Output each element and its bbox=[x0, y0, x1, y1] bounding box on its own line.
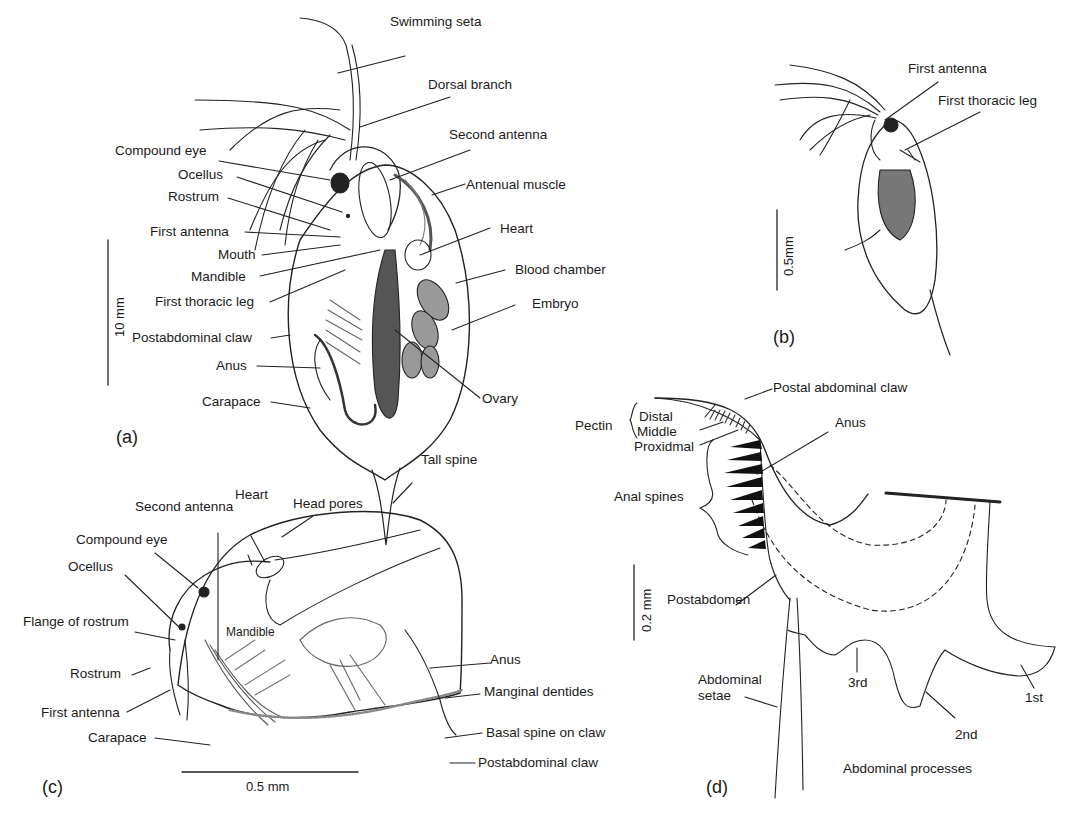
label-d-2nd: 2nd bbox=[955, 728, 978, 742]
label-a-dorsal-branch: Dorsal branch bbox=[428, 78, 512, 92]
label-a-rostrum: Rostrum bbox=[168, 190, 219, 204]
label-d-abdominal-setae: Abdominal setae bbox=[698, 672, 762, 703]
panel-a-scale-label: 10 mm bbox=[113, 297, 126, 337]
label-d-3rd: 3rd bbox=[848, 676, 868, 690]
label-a-mouth: Mouth bbox=[218, 248, 256, 262]
panel-c-drawing bbox=[125, 512, 490, 772]
label-a-swimming-seta: Swimming seta bbox=[390, 15, 482, 29]
label-d-anus: Anus bbox=[835, 416, 866, 430]
panel-a-tag: (a) bbox=[116, 428, 138, 446]
label-d-postabdomen: Postabdomen bbox=[667, 593, 750, 607]
label-a-blood-chamber: Blood chamber bbox=[515, 263, 606, 277]
label-c-mandible: Mandible bbox=[226, 626, 275, 638]
label-a-anus: Anus bbox=[216, 359, 247, 373]
label-d-middle: Middle bbox=[637, 425, 677, 439]
label-a-compound-eye: Compound eye bbox=[115, 144, 207, 158]
label-c-rostrum: Rostrum bbox=[70, 667, 121, 681]
label-d-distal: Distal bbox=[639, 410, 673, 424]
label-c-carapace: Carapace bbox=[88, 731, 147, 745]
label-c-basal-spine-on-claw: Basal spine on claw bbox=[486, 726, 605, 740]
label-c-flange-of-rostrum: Flange of rostrum bbox=[23, 615, 129, 629]
label-a-ocellus: Ocellus bbox=[178, 168, 223, 182]
label-a-first-thoracic-leg: First thoracic leg bbox=[155, 295, 254, 309]
label-a-heart: Heart bbox=[500, 222, 533, 236]
label-d-abdominal-processes: Abdominal processes bbox=[843, 762, 972, 776]
label-a-tall-spine: Tall spine bbox=[421, 453, 477, 467]
label-a-second-antenna: Second antenna bbox=[449, 128, 547, 142]
label-b-first-thoracic-leg: First thoracic leg bbox=[938, 94, 1037, 108]
panel-d-tag: (d) bbox=[706, 778, 728, 796]
label-d-proxidmal: Proxidmal bbox=[634, 440, 694, 454]
panel-b-drawing bbox=[775, 65, 980, 355]
panel-c-scale-label: 0.5 mm bbox=[246, 780, 289, 793]
label-c-compound-eye: Compound eye bbox=[76, 533, 168, 547]
label-a-postabdominal-claw: Postabdominal claw bbox=[132, 331, 252, 345]
label-c-second-antenna: Second antenna bbox=[135, 500, 233, 514]
label-a-embryo: Embryo bbox=[532, 297, 579, 311]
label-a-carapace: Carapace bbox=[202, 395, 261, 409]
panel-c-tag: (c) bbox=[42, 778, 63, 796]
label-d-anal-spines: Anal spines bbox=[614, 490, 684, 504]
label-c-first-antenna: First antenna bbox=[41, 706, 120, 720]
label-d-pectin: Pectin bbox=[575, 419, 613, 433]
label-a-antenual-muscle: Antenual muscle bbox=[466, 178, 566, 192]
panel-b-scale-label: 0.5mm bbox=[782, 236, 795, 276]
label-b-first-antenna: First antenna bbox=[908, 62, 987, 76]
daphnia-anatomy-figure: Swimming seta Dorsal branch Second anten… bbox=[0, 0, 1076, 816]
panel-b-tag: (b) bbox=[773, 328, 795, 346]
label-c-manginal-dentides: Manginal dentides bbox=[484, 685, 594, 699]
label-a-first-antenna: First antenna bbox=[150, 225, 229, 239]
label-c-ocellus: Ocellus bbox=[68, 560, 113, 574]
label-d-postal-abdominal-claw: Postal abdominal claw bbox=[773, 381, 907, 395]
label-c-postabdominal-claw: Postabdominal claw bbox=[478, 756, 598, 770]
label-c-anus: Anus bbox=[490, 653, 521, 667]
label-a-mandible: Mandible bbox=[191, 270, 246, 284]
panel-d-scale-label: 0.2 mm bbox=[640, 589, 653, 632]
label-c-head-pores: Head pores bbox=[293, 497, 363, 511]
label-d-1st: 1st bbox=[1025, 691, 1043, 705]
label-a-ovary: Ovary bbox=[482, 392, 518, 406]
label-c-heart: Heart bbox=[235, 488, 268, 502]
